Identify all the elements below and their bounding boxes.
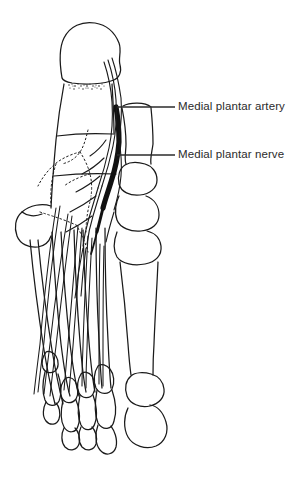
figure-background [0, 0, 303, 479]
label-medial-plantar-artery: Medial plantar artery [178, 100, 285, 112]
foot-anatomy-illustration [0, 0, 303, 479]
label-medial-plantar-nerve: Medial plantar nerve [178, 148, 284, 160]
anatomical-figure: Medial plantar artery Medial plantar ner… [0, 0, 303, 479]
